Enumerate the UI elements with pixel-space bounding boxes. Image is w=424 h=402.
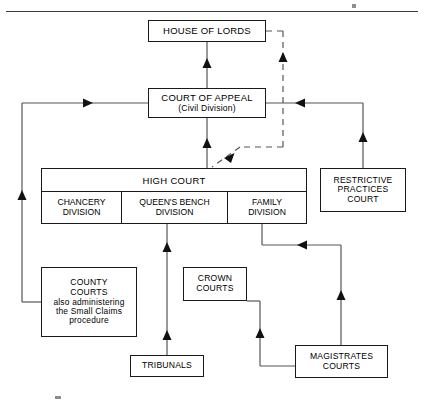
header-rule (6, 11, 418, 12)
court-of-appeal-box-line-2: (Civil Division) (178, 104, 236, 114)
house-of-lords-box-line-1: HOUSE OF LORDS (163, 26, 251, 37)
crown-courts-box[interactable]: CROWNCOURTS (183, 267, 247, 301)
crown-courts-box-line-2: COURTS (196, 284, 233, 294)
magistrates-courts-box[interactable]: MAGISTRATESCOURTS (295, 345, 388, 378)
high-court-box[interactable]: HIGH COURT CHANCERY DIVISION QUEEN'S BEN… (41, 168, 307, 224)
family-division-line-2: DIVISION (248, 208, 286, 218)
chancery-division-line-2: DIVISION (63, 208, 101, 218)
magistrates-courts-box-line-2: COURTS (323, 362, 360, 372)
queens-bench-division-line-2: DIVISION (156, 208, 194, 218)
high-court-divisions: CHANCERY DIVISION QUEEN'S BENCH DIVISION… (42, 192, 306, 223)
restrictive-practices-court-box-line-3: COURT (347, 195, 378, 205)
chancery-division-cell[interactable]: CHANCERY DIVISION (42, 192, 121, 223)
county-courts-box[interactable]: COUNTYCOURTSalso administeringthe Small … (41, 267, 137, 337)
edge-high-court-to-court-of-appeal (203, 118, 212, 168)
county-courts-box-line-5: procedure (69, 316, 109, 325)
tribunals-box[interactable]: TRIBUNALS (130, 355, 204, 377)
diagram-page: HOUSE OF LORDS COURT OF APPEAL(Civil Div… (0, 0, 424, 402)
edge-magistrates-courts-to-crown-courts (247, 301, 295, 366)
high-court-title: HIGH COURT (42, 169, 306, 192)
edge-tribunals-to-queens-bench-division (163, 224, 172, 355)
scan-artifact-top (352, 4, 356, 8)
edge-court-of-appeal-to-house-of-lords (203, 42, 212, 88)
court-of-appeal-box-line-1: COURT OF APPEAL (161, 93, 252, 104)
restrictive-practices-court-box[interactable]: RESTRICTIVEPRACTICESCOURT (320, 168, 406, 212)
family-division-cell[interactable]: FAMILY DIVISION (227, 192, 306, 223)
court-of-appeal-box[interactable]: COURT OF APPEAL(Civil Division) (148, 88, 266, 118)
queens-bench-division-cell[interactable]: QUEEN'S BENCH DIVISION (121, 192, 227, 223)
scan-artifact-bottom (55, 396, 61, 399)
house-of-lords-box[interactable]: HOUSE OF LORDS (148, 20, 266, 42)
tribunals-box-line-1: TRIBUNALS (142, 361, 192, 371)
edge-restrictive-practices-court-to-court-of-appeal (266, 99, 368, 169)
edge-magistrates-courts-to-family-division (262, 224, 346, 345)
